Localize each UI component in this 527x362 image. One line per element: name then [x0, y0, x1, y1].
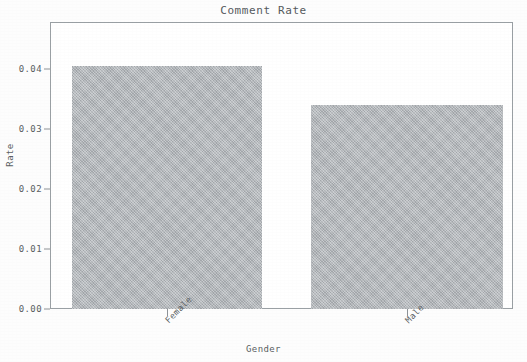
bar-male — [311, 105, 503, 309]
x-axis-title: Gender — [0, 344, 527, 354]
bar-female — [72, 66, 262, 309]
plot-area — [50, 22, 513, 309]
y-axis-title: Rate — [5, 135, 15, 175]
y-tick-label-0: 0.00 — [19, 304, 42, 314]
y-tick-label-3: 0.03 — [19, 124, 42, 134]
chart-screenshot: Comment Rate 0.00 0.01 0.02 0.03 0.04 Ra… — [0, 0, 527, 362]
y-axis-ticks: 0.00 0.01 0.02 0.03 0.04 — [0, 0, 42, 362]
y-tick-label-2: 0.02 — [19, 184, 42, 194]
y-tick-label-1: 0.01 — [19, 244, 42, 254]
y-tick-label-4: 0.04 — [19, 64, 42, 74]
chart-title: Comment Rate — [0, 4, 527, 17]
